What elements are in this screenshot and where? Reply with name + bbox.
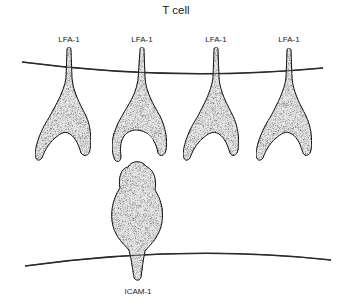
target-cell-membrane — [25, 253, 331, 266]
lfa1-molecule-4 — [256, 48, 312, 160]
icam1-molecule — [112, 162, 163, 280]
diagram-svg — [0, 0, 344, 307]
lfa1-molecule-1 — [35, 47, 91, 160]
lfa1-molecule-2-bound — [112, 47, 167, 162]
lfa1-molecule-3 — [183, 47, 239, 160]
target-cell-membrane-overlay — [25, 253, 331, 266]
diagram-canvas: T cell LFA-1 LFA-1 LFA-1 LFA-1 ICAM-1 — [0, 0, 344, 307]
